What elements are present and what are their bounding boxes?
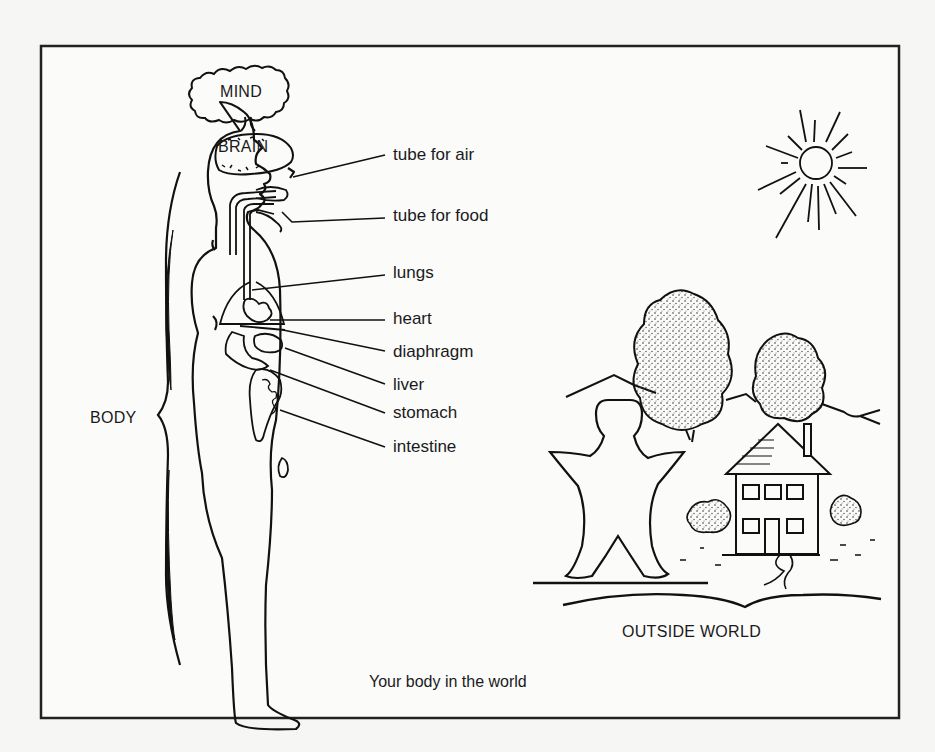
organ-label-diaphragm: diaphragm: [393, 343, 473, 360]
organ-label-heart: heart: [393, 310, 432, 327]
organ-label-lungs: lungs: [393, 264, 434, 281]
organ-label-tube-for-air: tube for air: [393, 146, 474, 163]
organ-label-tube-for-food: tube for food: [393, 207, 488, 224]
body-label: BODY: [90, 410, 137, 426]
figure-caption: Your body in the world: [369, 674, 527, 690]
brain-label: BRAIN: [218, 139, 268, 155]
organ-label-liver: liver: [393, 376, 424, 393]
organ-label-intestine: intestine: [393, 438, 456, 455]
mind-label: MIND: [220, 84, 262, 100]
diagram-canvas: [0, 0, 935, 752]
body-in-world-diagram: MIND BRAIN BODY OUTSIDE WORLD tube for a…: [0, 0, 935, 752]
outside-world-label: OUTSIDE WORLD: [622, 624, 761, 640]
organ-label-stomach: stomach: [393, 404, 457, 421]
tree-small: [753, 333, 825, 421]
